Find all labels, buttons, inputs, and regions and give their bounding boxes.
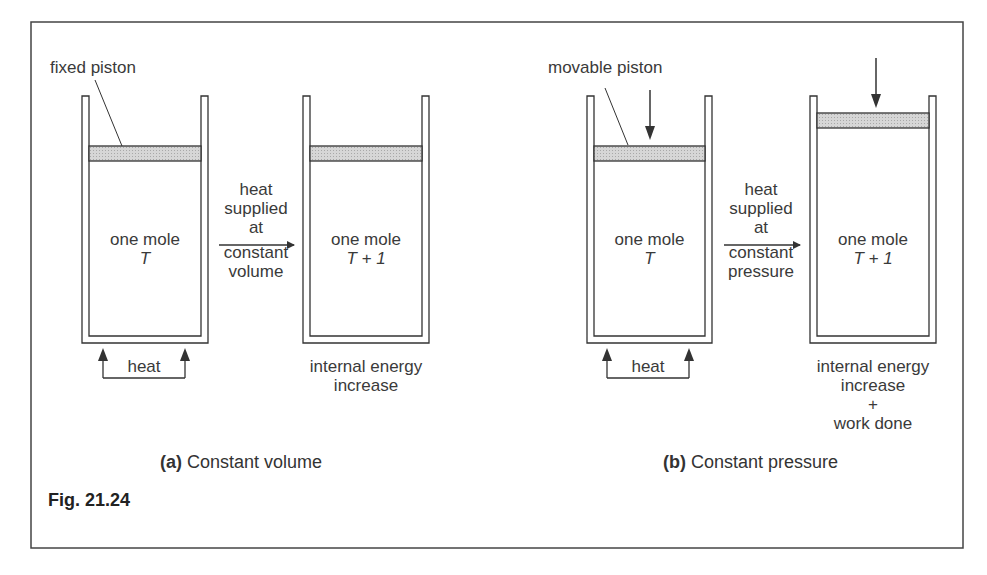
result-line: work done xyxy=(793,414,953,433)
substance-label: one mole xyxy=(817,230,929,249)
movable-piston-leader-line xyxy=(605,88,628,145)
temperature-label: T + 1 xyxy=(817,249,929,268)
result-line: increase xyxy=(793,376,953,395)
pressure-arrow-d xyxy=(871,58,881,108)
caption-a-text: Constant volume xyxy=(187,452,322,472)
result-line: internal energy xyxy=(286,357,446,376)
diagram-canvas xyxy=(0,0,987,575)
caption-b-letter: (b) xyxy=(663,452,686,472)
caption-b: (b) Constant pressure xyxy=(663,452,838,473)
heat-arrowhead-b-right xyxy=(684,348,694,361)
process-line: at xyxy=(718,218,804,237)
substance-label: one mole xyxy=(89,230,201,249)
cylinder-a-after xyxy=(303,96,429,343)
movable-piston xyxy=(594,146,705,161)
fixed-piston-leader-line xyxy=(95,80,122,146)
process-line: at xyxy=(214,218,298,237)
result-label-a: internal energy increase xyxy=(286,357,446,395)
process-line: constant xyxy=(214,243,298,262)
result-line: increase xyxy=(286,376,446,395)
result-label-b: internal energy increase + work done xyxy=(793,357,953,433)
temperature-label: T xyxy=(89,249,201,268)
process-line: supplied xyxy=(718,199,804,218)
process-label-a: heat supplied at constant volume xyxy=(214,180,298,281)
fixed-piston xyxy=(89,146,201,161)
movable-piston-label: movable piston xyxy=(548,58,662,77)
result-line: + xyxy=(793,395,953,414)
substance-label: one mole xyxy=(594,230,705,249)
caption-b-text: Constant pressure xyxy=(691,452,838,472)
figure-label: Fig. 21.24 xyxy=(48,490,130,511)
result-line: internal energy xyxy=(793,357,953,376)
cylinder-b-after-label: one mole T + 1 xyxy=(817,230,929,268)
process-line: heat xyxy=(214,180,298,199)
movable-piston-raised xyxy=(817,113,929,128)
process-line: constant xyxy=(718,243,804,262)
heat-arrowhead-a-left xyxy=(98,348,108,361)
caption-a-letter: (a) xyxy=(160,452,182,472)
heat-label-a: heat xyxy=(118,357,170,376)
fixed-piston-label: fixed piston xyxy=(50,58,136,77)
heat-label-b: heat xyxy=(622,357,674,376)
process-line: supplied xyxy=(214,199,298,218)
process-line: volume xyxy=(214,262,298,281)
cylinder-a-before-label: one mole T xyxy=(89,230,201,268)
cylinder-a-before xyxy=(82,96,208,343)
pressure-arrow-c xyxy=(645,90,655,140)
cylinder-a-after-label: one mole T + 1 xyxy=(310,230,422,268)
heat-arrowhead-a-right xyxy=(180,348,190,361)
caption-a: (a) Constant volume xyxy=(160,452,322,473)
fixed-piston-after xyxy=(310,146,422,161)
temperature-label: T xyxy=(594,249,705,268)
heat-arrowhead-b-left xyxy=(602,348,612,361)
process-line: heat xyxy=(718,180,804,199)
temperature-label: T + 1 xyxy=(310,249,422,268)
process-line: pressure xyxy=(718,262,804,281)
process-label-b: heat supplied at constant pressure xyxy=(718,180,804,281)
cylinder-b-before-label: one mole T xyxy=(594,230,705,268)
cylinder-b-after xyxy=(810,96,936,343)
substance-label: one mole xyxy=(310,230,422,249)
